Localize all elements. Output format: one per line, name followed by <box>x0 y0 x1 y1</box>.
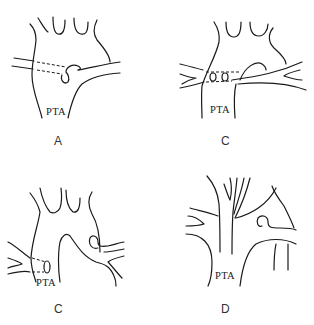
panel-a-vessels <box>12 17 120 118</box>
panel-c-vessels <box>8 188 124 286</box>
panel-c: PTA C <box>8 188 124 316</box>
panel-b-vessels <box>180 22 306 118</box>
panel-d: PTA D <box>186 176 296 316</box>
panel-c-label: C <box>54 302 63 316</box>
panel-a: PTA A <box>12 17 120 148</box>
panel-b-label: C <box>221 134 230 148</box>
panel-d-label: D <box>221 302 230 316</box>
panel-b-pta-label: PTA <box>210 104 230 115</box>
panel-a-label: A <box>54 134 62 148</box>
panel-a-pta-label: PTA <box>46 106 66 117</box>
figure-persistent-truncus-arteriosus: PTA A PTA C <box>0 0 314 325</box>
panel-c-pta-label: PTA <box>36 277 56 288</box>
diagram-canvas: PTA A PTA C <box>0 0 314 325</box>
panel-b: PTA C <box>180 22 306 148</box>
panel-d-pta-label: PTA <box>215 270 235 281</box>
panel-d-vessels <box>186 176 296 286</box>
